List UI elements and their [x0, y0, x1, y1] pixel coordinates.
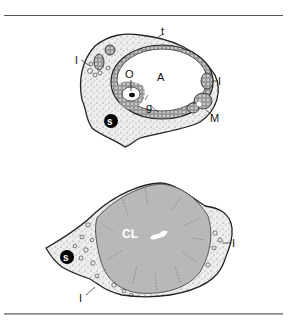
label-interstitial-bottom: I: [79, 292, 82, 304]
label-stroma-marker: s: [107, 116, 113, 127]
label-corpus-luteum: CL: [122, 227, 138, 241]
interstitial-cluster-right: [201, 73, 213, 89]
label-medullary: M: [210, 112, 219, 124]
label-antrum: A: [157, 71, 165, 83]
bottom-divider: [4, 313, 283, 315]
label-stroma-marker: s: [63, 252, 69, 263]
ovary-diagram: t I O A g I M s: [0, 0, 291, 320]
label-granulosa: g: [146, 101, 152, 113]
follicle-section: t I O A g I M s: [75, 25, 221, 147]
corpus-luteum-section: CL I I s: [46, 183, 235, 304]
label-theca: t: [161, 25, 164, 37]
oocyte-nucleus: [129, 93, 135, 97]
label-interstitial-right: I: [232, 237, 235, 249]
interstitial-cluster: [94, 54, 104, 70]
label-interstitial-left: I: [75, 54, 78, 66]
label-oocyte: O: [125, 68, 134, 80]
leader-line: [86, 287, 95, 295]
medullary-cell: [197, 102, 202, 107]
interstitial-cluster: [105, 45, 115, 55]
label-interstitial-right: I: [218, 75, 221, 87]
